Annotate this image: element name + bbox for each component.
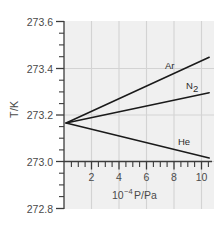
x-tick-label-10: 10	[196, 171, 208, 183]
y-axis-caption: T /K	[8, 101, 20, 118]
x-tick-label-6: 6	[144, 171, 150, 183]
y-axis-caption-variable: T	[8, 111, 20, 118]
x-axis-caption-variable: P	[134, 189, 141, 201]
y-axis-major-ticks	[56, 22, 64, 209]
y-tick-label-273-6: 273.6	[27, 16, 53, 28]
series-label-ar: Ar	[165, 60, 175, 71]
x-axis-caption-exponent: −4	[124, 187, 133, 196]
x-tick-label-2: 2	[89, 171, 95, 183]
y-tick-label-273-4: 273.4	[27, 63, 53, 75]
series-label-n2-subscript: 2	[193, 83, 198, 94]
series-label-n2-base: N	[186, 80, 193, 91]
y-tick-label-273-2: 273.2	[27, 109, 53, 121]
y-tick-label-273-0: 273.0	[27, 156, 53, 168]
x-axis-caption-unit: /Pa	[141, 189, 157, 201]
chart-figure: 273.6 273.4 273.2 273.0 272.8 2 4 6 8 10…	[0, 0, 221, 228]
x-tick-label-8: 8	[171, 171, 177, 183]
y-tick-label-272-8: 272.8	[27, 203, 53, 215]
x-axis-caption-mantissa: 10	[112, 189, 124, 201]
chart-plot-area: 273.6 273.4 273.2 273.0 272.8 2 4 6 8 10…	[0, 0, 221, 228]
y-axis-caption-unit: /K	[8, 101, 20, 111]
x-axis-caption: 10 −4 P /Pa	[112, 187, 157, 201]
x-tick-label-4: 4	[116, 171, 122, 183]
series-label-he: He	[178, 136, 190, 147]
